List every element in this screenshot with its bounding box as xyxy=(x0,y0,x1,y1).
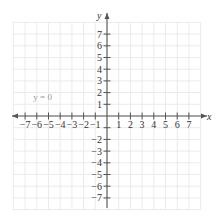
y-tick-label: 7 xyxy=(97,29,102,40)
y-tick-label: 3 xyxy=(97,75,102,86)
y-tick-label: −3 xyxy=(91,146,102,157)
x-tick-label: 5 xyxy=(163,119,168,130)
x-tick-label: −4 xyxy=(55,119,66,130)
y-tick-label: 5 xyxy=(97,52,102,63)
x-tick-label: 3 xyxy=(140,119,145,130)
x-tick-label: −7 xyxy=(20,119,31,130)
y-tick-label: −2 xyxy=(91,134,102,145)
y-axis-arrow-up-icon xyxy=(105,13,110,19)
x-tick-label: 2 xyxy=(128,119,133,130)
y-tick-label: −5 xyxy=(91,169,102,180)
y-tick-label: −4 xyxy=(91,157,102,168)
x-tick-label: −1 xyxy=(90,119,101,130)
x-tick-label: 6 xyxy=(175,119,180,130)
x-tick-label: −5 xyxy=(43,119,54,130)
y-tick-label: −7 xyxy=(91,192,102,203)
x-tick-label: 7 xyxy=(186,119,191,130)
equation-annotation: y = 0 xyxy=(33,92,52,102)
y-axis-label: y xyxy=(96,10,102,21)
coordinate-plane: −7−6−5−4−3−2−112345677654321−2−3−4−5−6−7… xyxy=(0,0,223,220)
x-tick-label: −2 xyxy=(78,119,89,130)
axes xyxy=(12,13,207,208)
x-axis-label: x xyxy=(206,111,212,122)
y-tick-label: 4 xyxy=(97,64,102,75)
x-tick-label: −6 xyxy=(31,119,42,130)
y-tick-label: 1 xyxy=(97,99,102,110)
x-tick-label: 1 xyxy=(116,119,121,130)
x-tick-label: −3 xyxy=(67,119,78,130)
y-tick-label: 6 xyxy=(97,40,102,51)
y-tick-label: −6 xyxy=(91,181,102,192)
x-tick-label: 4 xyxy=(151,119,156,130)
y-tick-label: 2 xyxy=(97,87,102,98)
